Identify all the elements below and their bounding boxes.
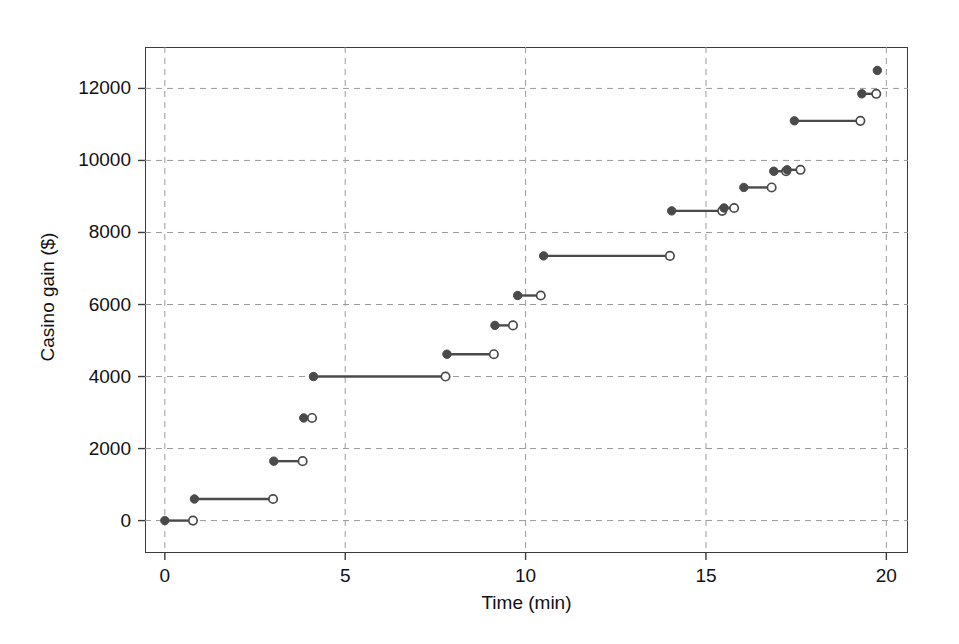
y-tick-label: 10000	[0, 149, 131, 171]
chart-root: 020004000600080001000012000 05101520 Cas…	[0, 0, 959, 644]
x-axis-title: Time (min)	[145, 592, 908, 614]
x-tick-label: 20	[876, 565, 897, 587]
y-tick-label: 12000	[0, 77, 131, 99]
x-tick-label: 10	[515, 565, 536, 587]
x-tick-label: 0	[160, 565, 171, 587]
y-tick-label: 2000	[0, 438, 131, 460]
y-tick-label: 8000	[0, 221, 131, 243]
x-tick-label: 15	[695, 565, 716, 587]
y-tick-label: 6000	[0, 294, 131, 316]
x-tick-label: 5	[340, 565, 351, 587]
y-axis-title: Casino gain ($)	[37, 187, 59, 407]
y-tick-label: 0	[0, 510, 131, 532]
plot-frame	[145, 47, 908, 553]
y-tick-label: 4000	[0, 366, 131, 388]
